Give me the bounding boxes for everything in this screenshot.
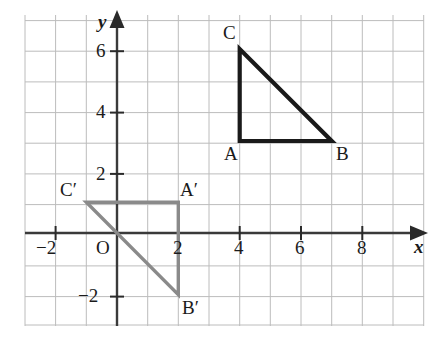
vertex-label-b-prime: B′ (182, 298, 199, 317)
y-tick-label--2: −2 (78, 286, 98, 305)
vertex-label-b: B (336, 144, 349, 163)
vertex-label-a-prime: A′ (180, 180, 198, 199)
y-axis (110, 10, 125, 326)
x-tick-label-6: 6 (295, 238, 305, 257)
vertex-label-c-prime: C′ (60, 180, 77, 199)
y-tick-label-2: 2 (96, 164, 106, 183)
y-axis-arrowhead (110, 10, 125, 28)
y-tick-label-4: 4 (96, 102, 106, 121)
x-tick-label--2: −2 (36, 238, 56, 257)
y-tick-label-6: 6 (96, 41, 106, 60)
y-axis-label: y (98, 12, 106, 31)
x-tick-label-4: 4 (234, 238, 244, 257)
grid-lines (25, 15, 424, 326)
x-tick-label-8: 8 (357, 238, 367, 257)
coordinate-plane-canvas (0, 0, 439, 351)
x-axis (25, 226, 428, 241)
x-tick-label-2: 2 (173, 238, 183, 257)
triangle-abc (240, 49, 332, 141)
vertex-label-c: C (223, 23, 236, 42)
origin-label: O (96, 238, 110, 257)
vertex-label-a: A (224, 144, 238, 163)
coordinate-plane-figure: y x O −2 2 4 6 8 6 4 2 −2 A B C A′ B′ C′ (0, 0, 439, 351)
x-axis-label: x (414, 237, 424, 256)
